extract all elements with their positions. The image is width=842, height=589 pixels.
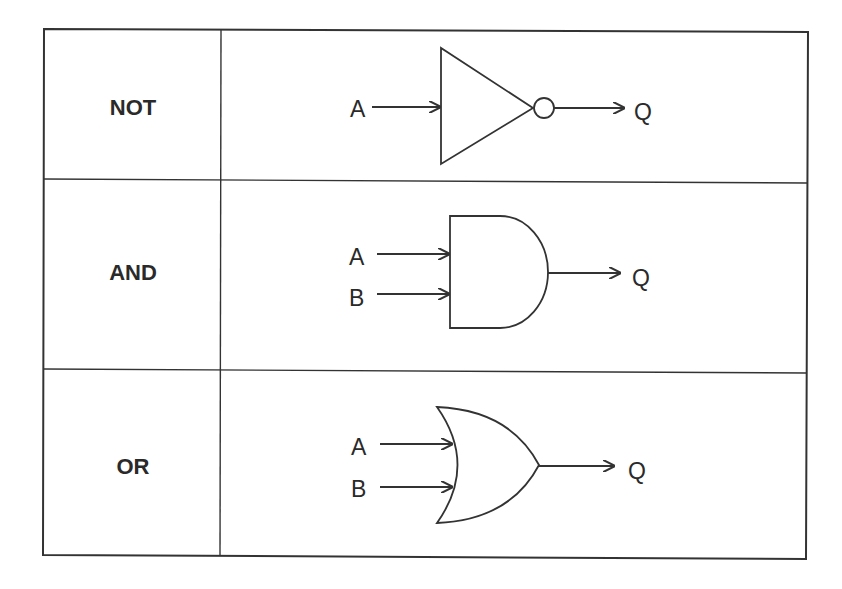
gate-name-and: AND <box>109 260 157 285</box>
table-row-not: NOT A Q <box>110 48 652 164</box>
and-gate-body <box>450 216 548 328</box>
gate-name-or: OR <box>117 454 150 479</box>
table-row-or: OR A B Q <box>117 407 646 523</box>
logic-gates-table: NOT A Q AND A B Q OR A B <box>0 0 842 589</box>
output-q-label: Q <box>632 265 650 291</box>
input-a-label: A <box>350 96 366 122</box>
output-q-label: Q <box>628 458 646 484</box>
row-divider-2 <box>44 369 807 373</box>
input-b-label: B <box>351 476 366 502</box>
inversion-bubble <box>534 98 554 118</box>
table-row-and: AND A B Q <box>109 216 650 328</box>
input-a-label: A <box>351 434 367 460</box>
output-q-label: Q <box>634 99 652 125</box>
input-b-label: B <box>349 285 364 311</box>
or-gate-symbol: A B Q <box>351 407 646 523</box>
and-gate-symbol: A B Q <box>349 216 650 328</box>
input-a-label: A <box>349 244 365 270</box>
gate-name-not: NOT <box>110 95 157 120</box>
not-gate-triangle <box>441 48 533 164</box>
row-divider-1 <box>44 179 807 183</box>
not-gate-symbol: A Q <box>350 48 652 164</box>
or-gate-body <box>437 407 539 523</box>
column-divider <box>220 30 221 556</box>
